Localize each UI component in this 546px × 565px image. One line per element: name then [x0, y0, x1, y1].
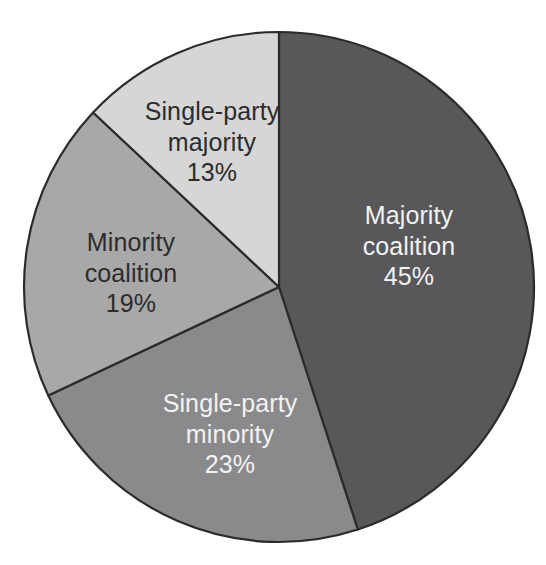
- pie-chart-canvas: [0, 0, 546, 565]
- pie-chart: Majoritycoalition45%Single-partyminority…: [0, 0, 546, 565]
